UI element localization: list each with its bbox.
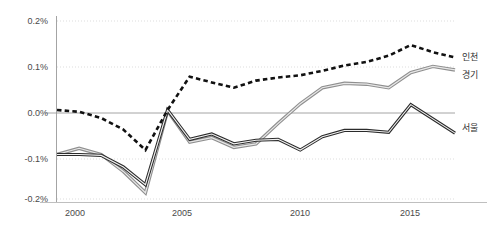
x-tick-labels: 2000 2005 2010 2015	[65, 208, 420, 218]
series-line-gyeonggi-highlight	[57, 66, 455, 192]
y-tick-label-0: 0.2%	[27, 16, 48, 26]
y-tick-labels: 0.2% 0.1% 0.0% -0.1% -0.2%	[24, 16, 48, 204]
gridlines	[45, 21, 455, 199]
y-tick-label-4: -0.2%	[24, 194, 48, 204]
series-label-seoul: 서울	[462, 123, 478, 133]
chart-canvas: 0.2% 0.1% 0.0% -0.1% -0.2% 2000 2005 201…	[0, 0, 499, 230]
x-tick-label-2015: 2015	[400, 208, 420, 218]
x-tick-label-2000: 2000	[65, 208, 85, 218]
y-tick-label-2: 0.0%	[27, 108, 48, 118]
y-tick-label-1: 0.1%	[27, 62, 48, 72]
x-tick-label-2010: 2010	[290, 208, 310, 218]
series-label-incheon: 인천	[462, 52, 478, 62]
y-tick-label-3: -0.1%	[24, 154, 48, 164]
line-chart: 0.2% 0.1% 0.0% -0.1% -0.2% 2000 2005 201…	[0, 0, 499, 230]
series-labels: 인천 경기 서울	[462, 52, 478, 133]
series-line-gyeonggi	[57, 66, 455, 192]
x-tick-label-2005: 2005	[172, 208, 192, 218]
series-line-incheon	[57, 45, 455, 150]
series-label-gyeonggi: 경기	[462, 69, 478, 80]
